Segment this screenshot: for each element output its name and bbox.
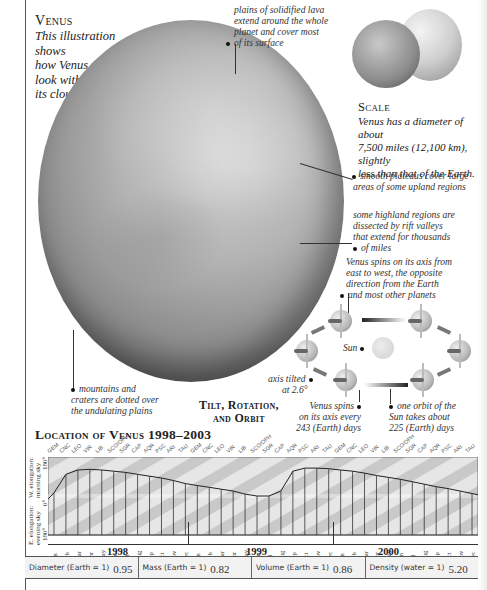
zodiac-label: CAP (130, 442, 143, 454)
zodiac-label: CNC (201, 442, 214, 454)
venus-orbit-position (410, 310, 432, 332)
month-labels: JanFebMarAprMayJunJulAugSepOctNovDecJanF… (48, 522, 478, 544)
venus-orbit-position (296, 340, 318, 362)
annotation-line: planet and cover most (234, 26, 328, 37)
leader-line (235, 44, 236, 74)
orbit-path-segment (437, 325, 451, 335)
zodiac-label: ARI (452, 444, 463, 454)
zodiac-label: LEO (357, 442, 369, 454)
zodiac-label: TAU (321, 443, 333, 454)
annotation-line: Sun takes about (389, 411, 456, 422)
zodiac-label: VIR (225, 444, 236, 454)
annotation-line: areas of some upland regions (353, 181, 469, 192)
annotation-line: extend around the whole (234, 15, 328, 26)
annotation-line: craters are dotted over (71, 394, 159, 405)
zodiac-label: TAU (464, 443, 476, 454)
year-divider (188, 522, 189, 545)
stat-label: Diameter (Earth = 1) (29, 563, 109, 572)
annotation-line: of its surface (234, 37, 284, 48)
bullet-dot (340, 294, 344, 298)
annotation-line: 225 (Earth) days (389, 422, 456, 433)
venus-orbit-position (330, 310, 352, 332)
zodiac-label: AQR (428, 442, 441, 454)
stat-label: Mass (Earth = 1) (143, 563, 207, 572)
annotation-rotation: Venus spins on its axis every 243 (Earth… (296, 400, 361, 433)
zodiac-label: LIB (237, 444, 247, 454)
annotation-line: plains of solidified lava (234, 4, 328, 15)
stats-bar: Diameter (Earth = 1)0.95 Mass (Earth = 1… (25, 556, 478, 579)
zodiac-label: GEM (189, 441, 202, 454)
zodiac-label: GEM (333, 441, 346, 454)
stat-value: 0.82 (210, 563, 229, 575)
annotation-line: axis tilted (268, 373, 306, 384)
zodiac-label: CNC (345, 442, 358, 454)
zodiac-label: ARI (166, 444, 177, 454)
zodiac-label: AQR (285, 442, 298, 454)
sun-label: Sun (343, 342, 368, 353)
annotation-line: at 2.6° (268, 384, 308, 395)
zodiac-label: LIB (94, 444, 104, 454)
year-divider (333, 522, 334, 545)
sun-icon (372, 337, 394, 359)
zodiac-label: TAU (178, 443, 190, 454)
annotation-spin: Venus spins on its axis from east to wes… (346, 256, 452, 300)
sun-label-text: Sun (343, 342, 357, 353)
stat-label: Volume (Earth = 1) (256, 563, 329, 572)
scale-block: Scale Venus has a diameter of about 7,50… (358, 100, 483, 180)
venus-surface-illustration (38, 20, 344, 382)
zodiac-label: LEO (70, 442, 82, 454)
bullet-dot (352, 175, 356, 179)
annotation-line: some highland regions are (353, 209, 455, 220)
venus-orbit-position (449, 340, 471, 362)
leader-line (300, 243, 352, 244)
venus-scale-globe (352, 20, 420, 88)
stat-volume: Volume (Earth = 1)0.86 (252, 557, 366, 578)
zodiac-label: CNC (58, 442, 71, 454)
scale-text: 7,500 miles (12,100 km), slightly (358, 141, 483, 167)
leader-line (348, 293, 349, 313)
zodiac-label: GEM (46, 441, 59, 454)
stat-density: Density (water = 1)5.20 (366, 557, 479, 578)
annotation-line: one orbit of the (397, 400, 456, 411)
annotation-line: that extend for thousands (353, 231, 455, 242)
annotation-axis-tilt: axis tilted at 2.6° (268, 373, 313, 395)
stat-mass: Mass (Earth = 1)0.82 (139, 557, 253, 578)
zodiac-label: ARI (309, 444, 320, 454)
annotation-mountains: mountains and craters are dotted over th… (71, 383, 159, 416)
zodiac-label: LEO (213, 442, 225, 454)
zodiac-label: AQR (142, 442, 155, 454)
annotation-line: of miles (361, 242, 391, 253)
orbit-path-segment (437, 367, 451, 377)
zodiac-labels: GEMCNCLEOVIRLIBSCO/OPHSGRCAPAQRPSCARITAU… (48, 440, 478, 458)
annotation-line: east to west, the opposite (346, 267, 452, 278)
chart-y-axis: W. elongation: morning sky E. elongation… (26, 453, 48, 545)
annotation-line: smooth plateaus cover large (360, 170, 469, 181)
zodiac-label: LIB (381, 444, 391, 454)
orbit-path-segment (311, 325, 325, 335)
annotation-line: Venus spins on its axis from (346, 256, 452, 267)
bullet-dot (71, 388, 75, 392)
stat-value: 0.95 (113, 563, 132, 575)
stat-value: 5.20 (448, 563, 467, 575)
orbit-path-segment (313, 367, 327, 377)
zodiac-label: VIR (82, 444, 93, 454)
leader-line (73, 330, 74, 390)
page-gutter (478, 0, 487, 590)
annotation-line: mountains and (79, 383, 136, 394)
annotation-plateaus: smooth plateaus cover large areas of som… (352, 170, 469, 192)
scale-text: Venus has a diameter of about (358, 115, 483, 141)
orbit-arrow-icon (362, 318, 406, 322)
zodiac-label: PSC (154, 442, 167, 454)
annotation-rift: some highland regions are dissected by r… (353, 209, 455, 253)
zodiac-label: PSC (440, 442, 453, 454)
annotation-line: direction from the Earth (346, 278, 452, 289)
tilt-rotation-orbit-title: Tilt, Rotation, and Orbit (199, 399, 279, 425)
title-line: and Orbit (199, 412, 279, 425)
venus-orbit-position (335, 369, 357, 391)
zodiac-label: VIR (369, 444, 380, 454)
zodiac-label: CAP (273, 442, 286, 454)
zodiac-label: CAP (416, 442, 429, 454)
annotation-line: Venus spins (310, 400, 355, 411)
bullet-dot (360, 347, 364, 351)
annotation-line: the undulating plains (71, 405, 159, 416)
